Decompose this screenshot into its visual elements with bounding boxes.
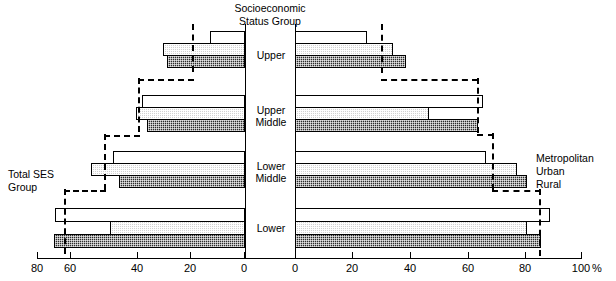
tick-label-left-0: 0	[224, 262, 264, 275]
dash-right-lower-middle-connector	[492, 190, 541, 192]
left-zero-axis	[245, 24, 246, 258]
tick-left-40	[137, 252, 138, 259]
tick-right-100	[581, 252, 582, 259]
dash-left-lower-vertical	[64, 189, 66, 254]
right-panel-legend: Metropolitan Urban Rural	[536, 152, 616, 191]
dash-right-upper-vertical	[381, 24, 383, 73]
bar-right-upper-middle-rural	[295, 119, 478, 132]
dash-left-lower-middle-vertical	[104, 134, 106, 190]
bar-right-lower-metropolitan	[295, 208, 550, 222]
dash-right-upper-connector	[381, 79, 478, 81]
group-label-lower: Lower	[246, 222, 296, 234]
bar-right-lower-rural	[295, 234, 541, 248]
dash-right-lower-middle-vertical	[492, 133, 494, 190]
tick-right-80	[525, 252, 526, 259]
axis-unit-label: %	[592, 262, 602, 275]
dash-left-upper-middle-connector	[104, 135, 140, 137]
tick-label-right-60: 60	[448, 262, 488, 275]
tick-left-20	[190, 252, 191, 259]
dash-left-upper-connector	[138, 79, 194, 81]
tick-right-60	[468, 252, 469, 259]
bar-left-lower-urban	[110, 221, 245, 235]
chart-title: Socioeconomic Status Group	[190, 2, 350, 27]
dash-right-lower-vertical	[539, 189, 541, 256]
bar-left-lower-middle-rural	[119, 175, 245, 188]
group-label-upper-middle: Upper Middle	[246, 104, 296, 128]
group-label-lower-middle: Lower Middle	[246, 160, 296, 184]
tick-right-20	[352, 252, 353, 259]
bar-left-lower-rural	[54, 234, 245, 248]
bar-right-upper-rural	[295, 55, 406, 68]
dash-left-upper-middle-vertical	[138, 78, 140, 132]
tick-label-left-20: 20	[170, 262, 210, 275]
bar-left-upper-rural	[167, 55, 245, 68]
group-label-upper: Upper	[246, 49, 296, 61]
tick-left-0	[244, 252, 245, 259]
tick-label-left-60: 60	[50, 262, 90, 275]
tick-left-80	[37, 252, 38, 259]
tick-left-60	[70, 252, 71, 259]
tick-right-40	[410, 252, 411, 259]
dash-left-lower-middle-connector	[64, 190, 106, 192]
tick-label-left-40: 40	[117, 262, 157, 275]
tick-label-right-20: 20	[332, 262, 372, 275]
chart-root: Socioeconomic Status Group Total SES Gro…	[0, 0, 616, 281]
tick-label-right-0: 0	[275, 262, 315, 275]
dash-right-upper-middle-vertical	[477, 78, 479, 133]
bar-left-lower-metropolitan	[55, 208, 245, 222]
bar-right-lower-urban	[295, 221, 527, 235]
tick-label-right-80: 80	[505, 262, 545, 275]
bar-left-upper-middle-rural	[147, 119, 245, 132]
tick-label-right-40: 40	[390, 262, 430, 275]
dash-left-upper-vertical	[192, 24, 194, 72]
x-axis-line	[37, 258, 582, 259]
tick-right-0	[295, 252, 296, 259]
